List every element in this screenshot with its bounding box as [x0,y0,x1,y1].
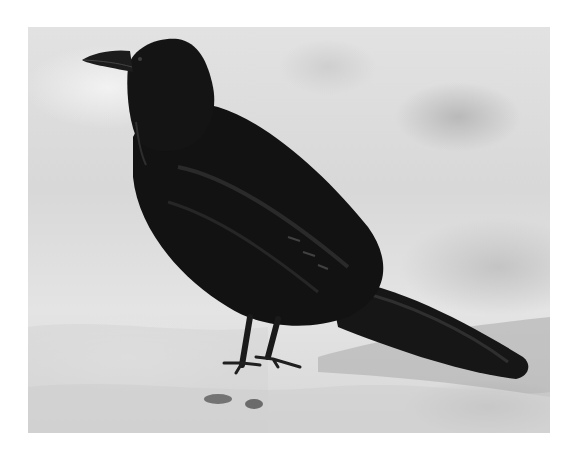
raven-leg-right [268,319,278,357]
snow-foreground [28,384,550,433]
raven-illustration [28,27,550,433]
raven-head [127,39,214,152]
raven-photo [28,27,550,433]
snow-track [204,394,232,404]
raven-eye [138,57,142,61]
raven-beak [82,50,133,72]
snow-track [245,399,263,409]
